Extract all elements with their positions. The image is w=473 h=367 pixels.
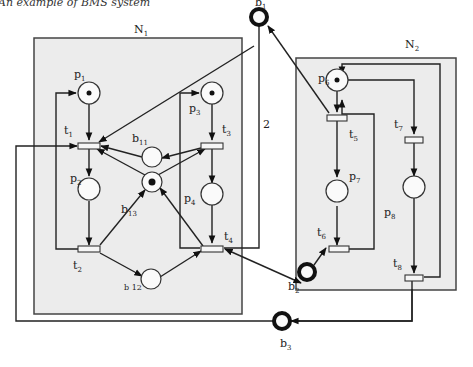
place-b11 — [142, 147, 162, 167]
place-p8 — [403, 176, 425, 198]
transition-t3 — [201, 143, 223, 149]
label-b12: b 12 — [124, 283, 142, 292]
figure-caption: An example of BMS system — [0, 0, 150, 9]
place-p1 — [78, 82, 100, 104]
place-p4 — [201, 183, 223, 205]
arc-weight-label: 2 — [263, 118, 270, 131]
net-n2-label: N2 — [405, 38, 419, 53]
transition-t4 — [201, 246, 223, 252]
place-b1 — [251, 9, 267, 25]
place-b2 — [299, 264, 315, 280]
net-n1-box — [34, 38, 242, 314]
net-n1-label: N1 — [134, 23, 148, 38]
transition-t8 — [405, 275, 423, 281]
place-b12 — [141, 269, 161, 289]
label-b3: b3 — [280, 337, 292, 352]
petri-net-diagram: An example of BMS system N1 N2 2 — [0, 0, 473, 367]
place-p7 — [326, 180, 348, 202]
place-p3 — [201, 82, 223, 104]
transition-t2 — [78, 246, 100, 252]
transition-t5 — [327, 115, 347, 121]
place-b13 — [142, 172, 162, 192]
net-n2-box — [296, 58, 456, 290]
transition-t7 — [405, 137, 423, 143]
transition-t6 — [329, 246, 349, 252]
transition-t1 — [78, 143, 100, 149]
place-b3 — [274, 313, 290, 329]
